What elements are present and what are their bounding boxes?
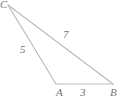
side-length-label-cb: 7 xyxy=(63,29,69,40)
vertex-label-b: B xyxy=(110,87,117,98)
vertex-label-c: C xyxy=(0,0,7,10)
side-length-label-ab: 3 xyxy=(80,87,86,98)
geometry-diagram: C A B 5 7 3 xyxy=(0,0,122,101)
side-length-label-ca: 5 xyxy=(20,44,26,55)
side-ca-line xyxy=(8,5,56,84)
vertex-label-a: A xyxy=(56,87,63,98)
